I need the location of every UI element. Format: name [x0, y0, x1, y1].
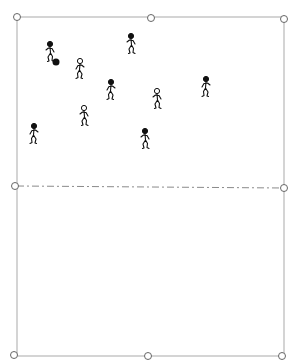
halfway-line — [17, 186, 284, 188]
player-filled-icon[interactable] — [202, 76, 210, 96]
marker-corner-top-left-icon[interactable] — [14, 14, 21, 21]
player-filled-icon[interactable] — [107, 79, 115, 99]
marker-top-center-icon[interactable] — [148, 15, 155, 22]
players-layer — [30, 33, 210, 148]
ball-icon[interactable] — [53, 59, 60, 66]
player-filled-icon[interactable] — [46, 41, 54, 61]
marker-corner-top-right-icon[interactable] — [281, 16, 288, 23]
marker-midline-right-icon[interactable] — [281, 185, 288, 192]
player-hollow-icon[interactable] — [76, 58, 84, 78]
drill-field — [0, 0, 302, 361]
player-hollow-icon[interactable] — [153, 88, 161, 108]
player-filled-icon[interactable] — [141, 128, 149, 148]
player-hollow-icon[interactable] — [80, 105, 88, 125]
marker-bottom-center-icon[interactable] — [145, 353, 152, 360]
marker-corner-bottom-left-icon[interactable] — [11, 352, 18, 359]
player-filled-icon[interactable] — [127, 33, 135, 53]
marker-midline-left-icon[interactable] — [12, 183, 19, 190]
marker-corner-bottom-right-icon[interactable] — [279, 353, 286, 360]
player-filled-icon[interactable] — [30, 123, 38, 143]
